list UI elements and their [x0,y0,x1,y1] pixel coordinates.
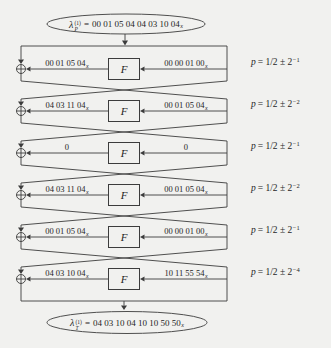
round-3-probability: p= 1/2 ± 2−1 [251,140,300,152]
round-2-probability: p= 1/2 ± 2−2 [251,98,300,110]
round-3-f-box: F [108,142,140,164]
swap-cross-lines [21,81,227,99]
round-1-f-box: F [108,58,140,80]
lambda-symbol: λ [70,317,74,328]
lambda-symbol: λ [69,19,73,30]
round-1-xor-icon [17,65,26,74]
output-mask-value: 04 03 10 04 10 10 50 50 [93,318,181,328]
hex-subscript: x [180,23,183,29]
round-3-xor-icon [17,149,26,158]
swap-cross-lines [21,249,227,267]
round-4-f-box: F [108,184,140,206]
round-6-right-mask: 10 11 55 54x [145,268,227,278]
lambda-subsup: (1)P [74,20,80,32]
hex-subscript: x [181,322,184,328]
round-4-left-mask: 04 03 11 04x [26,184,108,194]
round-2-xor-icon [17,107,26,116]
round-3-left-mask: 0 [26,142,108,152]
round-1-left-mask: 00 01 05 04x [26,58,108,68]
arrow-down-icon [18,186,24,191]
round-1-right-mask: 00 00 01 00x [145,58,227,68]
diagram-wiring [0,0,331,348]
arrow-left-icon [140,109,145,114]
round-5-right-mask: 00 00 01 00x [145,226,227,236]
linear-trail-diagram: λ(1)P=00 01 05 04 04 03 10 04x 00 01 05 … [0,0,331,348]
round-3-right-mask: 0 [145,142,227,152]
input-mask-value: 00 01 05 04 04 03 10 04 [92,19,180,29]
swap-cross-lines [21,123,227,141]
arrow-down-icon [121,306,127,311]
arrow-down-icon [18,102,24,107]
arrow-down-icon [122,41,128,46]
round-4-right-mask: 00 01 05 04x [145,184,227,194]
arrow-left-icon [140,193,145,198]
arrow-down-icon [18,144,24,149]
round-2-right-mask: 00 01 05 04x [145,100,227,110]
arrow-down-icon [18,60,24,65]
round-4-xor-icon [17,191,26,200]
round-6-f-box: F [108,268,140,290]
arrow-left-icon [140,67,145,72]
arrow-left-icon [140,277,145,282]
lambda-subsup: (1)T [75,318,81,330]
round-1-probability: p= 1/2 ± 2−1 [251,56,300,68]
round-6-probability: p= 1/2 ± 2−4 [251,266,300,278]
swap-cross-lines [21,207,227,225]
round-2-left-mask: 04 03 11 04x [26,100,108,110]
input-mask-label: λ(1)P=00 01 05 04 04 03 10 04x [47,14,205,34]
round-5-xor-icon [17,233,26,242]
round-5-f-box: F [108,226,140,248]
swap-cross-lines [21,165,227,183]
round-6-left-mask: 04 03 10 04x [26,268,108,278]
round-6-xor-icon [17,275,26,284]
output-mask-label: λ(1)T=04 03 10 04 10 10 50 50x [47,311,207,334]
arrow-down-icon [18,270,24,275]
round-5-left-mask: 00 01 05 04x [26,226,108,236]
arrow-left-icon [140,151,145,156]
round-4-probability: p= 1/2 ± 2−2 [251,182,300,194]
arrow-down-icon [18,228,24,233]
arrow-left-icon [140,235,145,240]
round-5-probability: p= 1/2 ± 2−1 [251,224,300,236]
round-2-f-box: F [108,100,140,122]
